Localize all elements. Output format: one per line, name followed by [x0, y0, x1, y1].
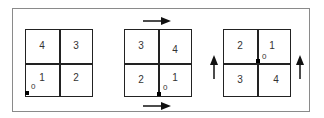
origin-label: 0 — [262, 52, 266, 61]
cell-top-left: 4 — [32, 40, 52, 51]
cell-top-left: 3 — [131, 40, 151, 51]
arrow-up-icon — [209, 55, 219, 79]
cell-bottom-left: 3 — [230, 74, 250, 85]
cell-bottom-right: 2 — [66, 72, 86, 83]
cell-top-right: 1 — [262, 40, 282, 51]
origin-point — [157, 92, 161, 96]
quadrant-grid-1: 4 3 1 2 0 — [25, 29, 93, 97]
grid-divider-horizontal — [26, 63, 92, 65]
cell-bottom-right: 1 — [165, 72, 185, 83]
quadrant-grid-2: 3 4 2 1 0 — [124, 29, 192, 97]
cell-bottom-left: 2 — [131, 74, 151, 85]
arrow-up-icon — [295, 55, 305, 79]
grid-divider-horizontal — [125, 63, 191, 65]
cell-top-left: 2 — [230, 40, 250, 51]
origin-point — [25, 91, 29, 95]
origin-label: 0 — [163, 83, 167, 92]
arrow-right-icon — [143, 16, 171, 26]
cell-bottom-right: 4 — [266, 74, 286, 85]
origin-point — [256, 59, 260, 63]
cell-top-right: 3 — [66, 40, 86, 51]
grid-divider-horizontal — [224, 63, 290, 65]
arrow-right-icon — [143, 101, 171, 111]
quadrant-grid-3: 2 1 3 4 0 — [223, 29, 291, 97]
origin-label: 0 — [31, 82, 35, 91]
cell-top-right: 4 — [165, 44, 185, 55]
